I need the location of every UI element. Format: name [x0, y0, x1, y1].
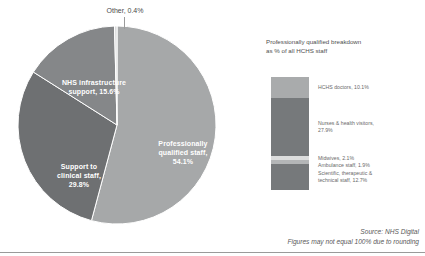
bar-segment-scientific-therapeutic-technical — [271, 164, 309, 190]
segment-label-hchs-doctors: HCHS doctors, 10.1% — [318, 84, 418, 91]
pie-slice-label-other: Other, 0.4% — [85, 7, 165, 14]
rounding-note: Figures may not equal 100% due to roundi… — [287, 237, 419, 247]
bottom-divider — [0, 252, 425, 253]
breakdown-title: Professionally qualified breakdown as % … — [266, 38, 386, 55]
chart-figure: Professionally qualified staff, 54.1% NH… — [0, 0, 425, 256]
pie-slice-label-support-clinical: Support to clinical staff, 29.8% — [48, 162, 110, 189]
pie-slice-label-infrastructure: NHS infrastructure support, 15.6% — [55, 78, 133, 96]
source-text: Source: NHS Digital — [287, 227, 419, 237]
segment-label-scientific-therapeutic-technical: Scientific, therapeutic & technical staf… — [318, 170, 418, 184]
stacked-bar-area: HCHS doctors, 10.1%Nurses & health visit… — [266, 77, 425, 193]
pie-slice-label-professionally-qualified: Professionally qualified staff, 54.1% — [150, 139, 216, 166]
stacked-bar — [271, 77, 309, 190]
bar-segment-nurses-health-visitors — [271, 98, 309, 156]
breakdown-panel: Professionally qualified breakdown as % … — [266, 38, 425, 55]
source-note: Source: NHS Digital Figures may not equa… — [287, 227, 419, 246]
pie-chart: Professionally qualified staff, 54.1% NH… — [17, 25, 217, 225]
segment-label-midwives-ambulance: Midwives, 2.1% Ambulance staff, 1.9% — [318, 155, 418, 169]
pie-chart-svg — [17, 25, 217, 225]
bar-segment-hchs-doctors — [271, 77, 309, 98]
segment-label-nurses-health-visitors: Nurses & health visitors, 27.9% — [318, 120, 418, 134]
other-leader-line — [124, 17, 125, 29]
